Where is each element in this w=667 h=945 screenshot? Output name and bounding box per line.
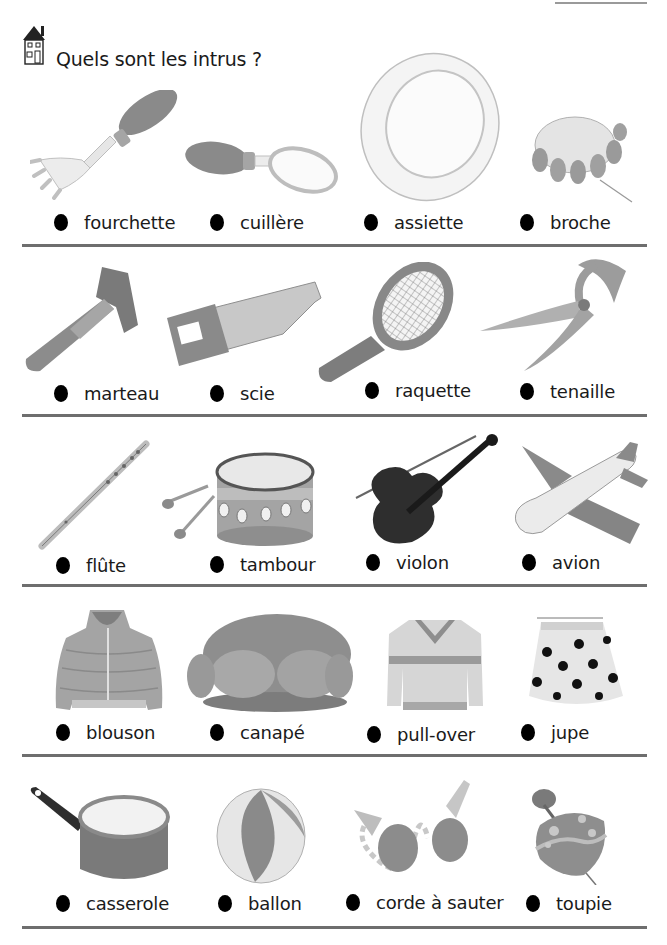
item-label: cuillère bbox=[210, 212, 304, 233]
checkbox-bullet[interactable] bbox=[365, 382, 379, 399]
sweater-icon bbox=[385, 618, 485, 713]
sofa-icon bbox=[187, 612, 357, 712]
item-label: raquette bbox=[365, 380, 471, 401]
item-label: violon bbox=[366, 552, 449, 573]
item-label: avion bbox=[522, 552, 600, 573]
item-label: pull-over bbox=[367, 724, 475, 745]
item-label: jupe bbox=[521, 722, 589, 743]
item-label: assiette bbox=[364, 212, 463, 233]
checkbox-bullet[interactable] bbox=[367, 726, 381, 743]
item-label: corde à sauter bbox=[346, 892, 504, 913]
spoon-icon bbox=[185, 140, 340, 200]
fork-icon bbox=[30, 90, 185, 200]
checkbox-bullet[interactable] bbox=[520, 383, 534, 400]
checkbox-bullet[interactable] bbox=[210, 214, 224, 231]
item-label: marteau bbox=[54, 383, 159, 404]
ball-icon bbox=[215, 788, 307, 884]
checkbox-bullet[interactable] bbox=[526, 895, 540, 912]
saucepan-icon bbox=[28, 785, 173, 885]
jacket-icon bbox=[52, 608, 167, 713]
checkbox-bullet[interactable] bbox=[54, 214, 68, 231]
row-divider bbox=[22, 414, 647, 417]
flute-icon bbox=[38, 440, 153, 550]
checkbox-bullet[interactable] bbox=[210, 385, 224, 402]
item-label: scie bbox=[210, 383, 275, 404]
checkbox-bullet[interactable] bbox=[56, 724, 70, 741]
page-title: Quels sont les intrus ? bbox=[56, 48, 262, 70]
checkbox-bullet[interactable] bbox=[520, 214, 534, 231]
jump-rope-icon bbox=[350, 778, 480, 888]
checkbox-bullet[interactable] bbox=[218, 895, 232, 912]
checkbox-bullet[interactable] bbox=[366, 554, 380, 571]
hammer-icon bbox=[20, 265, 145, 375]
drum-icon bbox=[162, 452, 322, 547]
item-label: toupie bbox=[526, 893, 612, 914]
checkbox-bullet[interactable] bbox=[364, 214, 378, 231]
racket-icon bbox=[315, 262, 465, 384]
item-label: canapé bbox=[210, 722, 305, 743]
pincers-icon bbox=[478, 255, 638, 375]
saw-icon bbox=[165, 280, 325, 370]
item-label: broche bbox=[520, 212, 611, 233]
row-divider bbox=[22, 244, 647, 247]
item-label: ballon bbox=[218, 893, 302, 914]
item-label: tambour bbox=[210, 554, 315, 575]
checkbox-bullet[interactable] bbox=[521, 724, 535, 741]
item-label: tenaille bbox=[520, 381, 615, 402]
item-label: flûte bbox=[56, 555, 126, 576]
row-divider bbox=[22, 926, 647, 929]
spinning-top-icon bbox=[530, 785, 610, 885]
checkbox-bullet[interactable] bbox=[522, 554, 536, 571]
item-label: fourchette bbox=[54, 212, 175, 233]
checkbox-bullet[interactable] bbox=[56, 557, 70, 574]
checkbox-bullet[interactable] bbox=[346, 894, 360, 911]
row-divider bbox=[22, 584, 647, 587]
row-divider bbox=[22, 754, 647, 757]
violin-icon bbox=[352, 432, 502, 547]
house-icon bbox=[22, 24, 48, 66]
checkbox-bullet[interactable] bbox=[210, 556, 224, 573]
item-label: casserole bbox=[56, 893, 169, 914]
checkbox-bullet[interactable] bbox=[56, 895, 70, 912]
checkbox-bullet[interactable] bbox=[210, 724, 224, 741]
brooch-icon bbox=[520, 110, 635, 205]
item-label: blouson bbox=[56, 722, 155, 743]
plate-icon bbox=[355, 52, 505, 202]
skirt-icon bbox=[527, 612, 627, 712]
airplane-icon bbox=[512, 440, 652, 545]
top-rule bbox=[555, 2, 647, 4]
checkbox-bullet[interactable] bbox=[54, 385, 68, 402]
